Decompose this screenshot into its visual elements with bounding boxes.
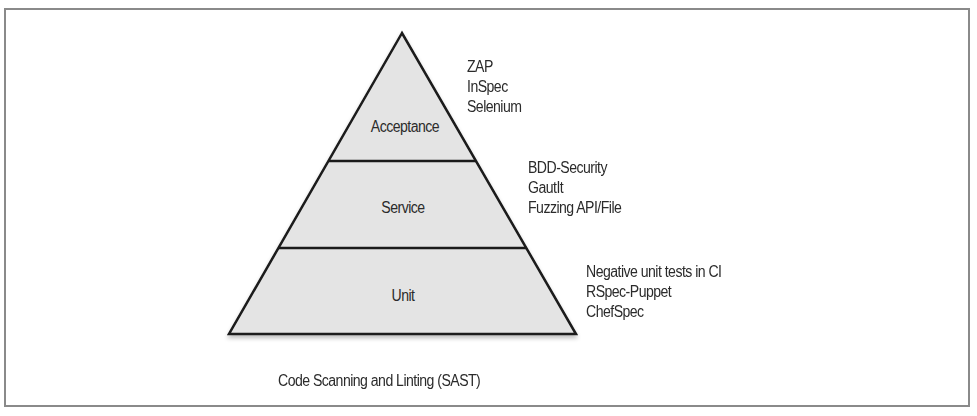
- tool-item: RSpec-Puppet: [586, 282, 722, 302]
- unit-tools-list: Negative unit tests in CI RSpec-Puppet C…: [586, 262, 722, 322]
- layer-service-label: Service: [381, 199, 424, 217]
- tool-item: Selenium: [467, 97, 521, 117]
- layer-acceptance-label: Acceptance: [371, 118, 439, 136]
- tool-item: InSpec: [467, 77, 521, 97]
- tool-item: BDD-Security: [528, 158, 621, 178]
- service-tools-list: BDD-Security GautIt Fuzzing API/File: [528, 158, 621, 218]
- tool-item: ZAP: [467, 57, 521, 77]
- acceptance-tools-list: ZAP InSpec Selenium: [467, 57, 521, 117]
- tool-item: Fuzzing API/File: [528, 198, 621, 218]
- foundation-label: Code Scanning and Linting (SAST): [278, 371, 480, 391]
- tool-item: GautIt: [528, 178, 621, 198]
- tool-item: ChefSpec: [586, 302, 722, 322]
- layer-unit-label: Unit: [392, 287, 415, 305]
- tool-item: Negative unit tests in CI: [586, 262, 722, 282]
